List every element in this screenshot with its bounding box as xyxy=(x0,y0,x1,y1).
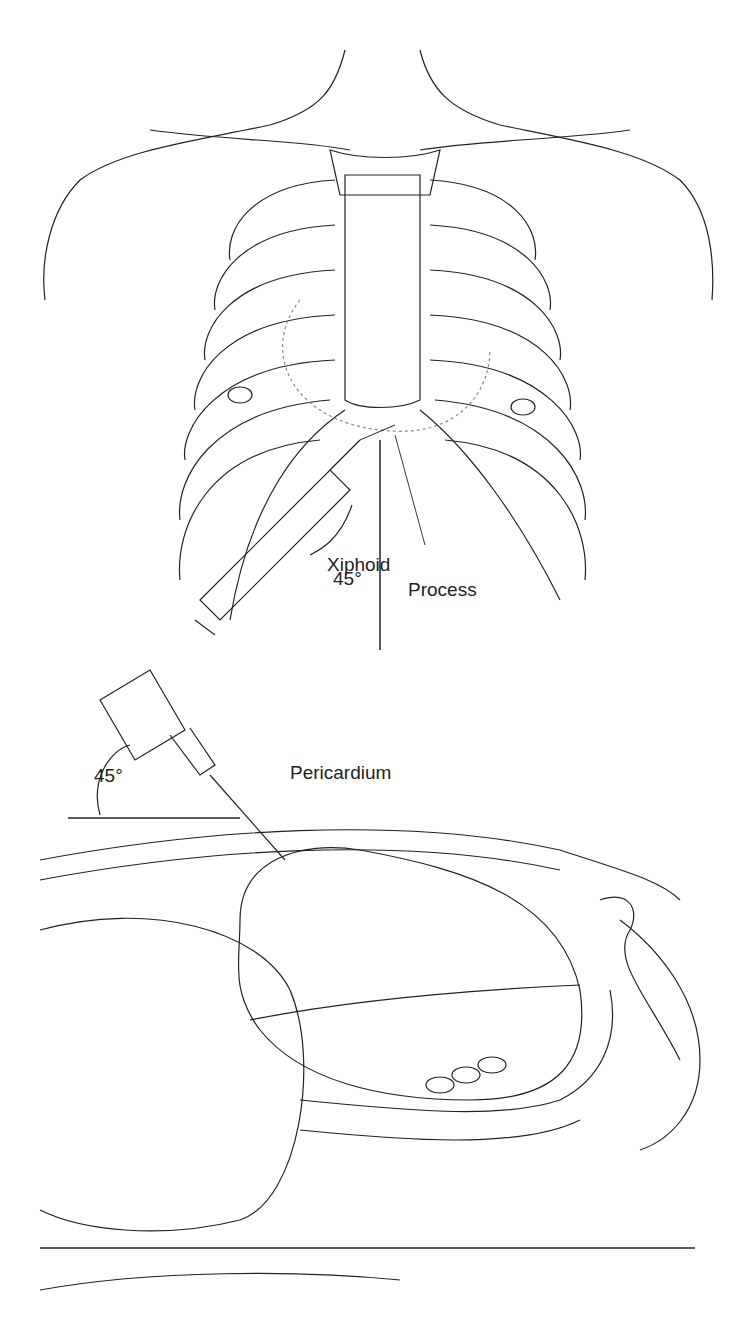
xiphoid-label-line2: Process xyxy=(408,579,477,601)
pericardium-label: Pericardium xyxy=(290,762,391,784)
syringe-bottom xyxy=(100,670,285,860)
angle-label-bottom: 45° xyxy=(94,765,123,787)
angle-label-top: 45° xyxy=(333,568,362,590)
illustration xyxy=(0,0,731,1326)
